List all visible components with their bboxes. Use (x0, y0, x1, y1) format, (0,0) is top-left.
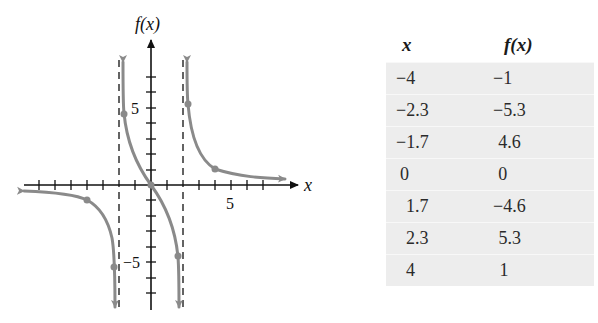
rational-function-graph: f(x) x 5 5 −5 (0, 0, 330, 323)
point (111, 264, 118, 271)
cell-x: −2.3 (386, 100, 491, 121)
cell-fx: −5.3 (491, 100, 594, 121)
cell-fx: 5.3 (487, 228, 594, 249)
cell-x: 4 (386, 260, 486, 281)
table-header: x f(x) (386, 28, 594, 62)
x-axis-label: x (303, 175, 312, 195)
cell-fx: −1 (491, 68, 594, 89)
header-fx: f(x) (492, 34, 594, 56)
point (148, 182, 155, 189)
cell-x: 2.3 (386, 228, 487, 249)
header-x: x (386, 34, 492, 56)
table-row: 2.3 5.3 (386, 222, 594, 254)
point (121, 111, 128, 118)
table-row: 4 1 (386, 254, 594, 286)
table-row: −1.7 4.6 (386, 126, 594, 158)
table-row: 1.7 −4.6 (386, 190, 594, 222)
point (212, 166, 219, 173)
y-axis-label: f(x) (135, 14, 160, 35)
point (175, 253, 182, 260)
cell-fx: −4.6 (491, 196, 594, 217)
cell-fx: 0 (486, 164, 594, 185)
cell-x: 0 (386, 164, 486, 185)
curve-branch-left (24, 191, 115, 307)
x-tick-label-5: 5 (226, 195, 234, 212)
curve-branch-right (187, 62, 285, 179)
table-row: −2.3 −5.3 (386, 94, 594, 126)
point (185, 101, 192, 108)
cell-fx: 1 (486, 260, 594, 281)
values-table: x f(x) −4 −1 −2.3 −5.3 −1.7 4.6 0 0 1.7 … (386, 28, 594, 286)
cell-x: −1.7 (386, 132, 486, 153)
cell-fx: 4.6 (486, 132, 594, 153)
cell-x: 1.7 (386, 196, 491, 217)
y-tick-label-5: 5 (131, 100, 139, 117)
cell-x: −4 (386, 68, 491, 89)
table-row: −4 −1 (386, 62, 594, 94)
point (84, 197, 91, 204)
y-tick-label-neg5: −5 (123, 254, 140, 271)
table-row: 0 0 (386, 158, 594, 190)
